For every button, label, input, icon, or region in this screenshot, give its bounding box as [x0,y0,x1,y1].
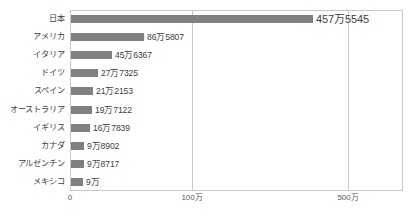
bar[interactable] [71,178,83,186]
bar-value-label: 9万 [86,177,100,187]
x-axis: 0100万500万 [0,191,413,211]
bar[interactable] [71,142,84,150]
bar[interactable] [71,69,98,77]
bar-value-label: 21万2153 [96,86,133,96]
category-label: カナダ [0,141,65,151]
x-tick-label: 0 [68,193,72,203]
category-label: ドイツ [0,68,65,78]
bar-chart: 日本457万5545アメリカ86万5807イタリア45万6367ドイツ27万73… [0,0,413,221]
bar[interactable] [71,15,313,23]
category-label: アメリカ [0,32,65,42]
bar-row: メキシコ9万 [0,173,413,191]
bar[interactable] [71,160,84,168]
bar-row: アメリカ86万5807 [0,28,413,46]
bar-row: イギリス16万7839 [0,119,413,137]
bar[interactable] [71,33,144,41]
category-label: オーストラリア [0,105,65,115]
bar-value-label: 16万7839 [93,123,130,133]
bar[interactable] [71,124,90,132]
bar-row: オーストラリア19万7122 [0,101,413,119]
bar-value-label: 9万8717 [87,159,119,169]
bar[interactable] [71,106,92,114]
x-tick-label: 500万 [338,193,359,203]
category-label: 日本 [0,14,65,24]
bar-row: スペイン21万2153 [0,82,413,100]
bar-row: カナダ9万8902 [0,137,413,155]
bar-and-value: 9万 [71,173,100,191]
bar[interactable] [71,87,93,95]
bar-and-value: 27万7325 [71,64,138,82]
x-tick-label: 100万 [182,193,203,203]
bar-row: イタリア45万6367 [0,46,413,64]
bar-and-value: 457万5545 [71,10,369,28]
bar-and-value: 86万5807 [71,28,184,46]
bar-row: 日本457万5545 [0,10,413,28]
bar-value-label: 9万8902 [87,141,119,151]
bar-value-label: 19万7122 [95,105,132,115]
bar-row: ドイツ27万7325 [0,64,413,82]
category-label: イタリア [0,50,65,60]
bar-and-value: 9万8902 [71,137,119,155]
bar[interactable] [71,51,112,59]
category-label: アルゼンチン [0,159,65,169]
category-label: スペイン [0,86,65,96]
bar-and-value: 19万7122 [71,101,132,119]
bar-and-value: 45万6367 [71,46,152,64]
bar-row: アルゼンチン9万8717 [0,155,413,173]
bar-value-label: 27万7325 [101,68,138,78]
category-label: イギリス [0,123,65,133]
bar-value-label: 457万5545 [316,14,369,24]
bar-and-value: 16万7839 [71,119,130,137]
bar-and-value: 9万8717 [71,155,119,173]
bar-and-value: 21万2153 [71,82,133,100]
bar-value-label: 45万6367 [115,50,152,60]
bar-rows: 日本457万5545アメリカ86万5807イタリア45万6367ドイツ27万73… [0,10,413,191]
bar-value-label: 86万5807 [147,32,184,42]
category-label: メキシコ [0,177,65,187]
